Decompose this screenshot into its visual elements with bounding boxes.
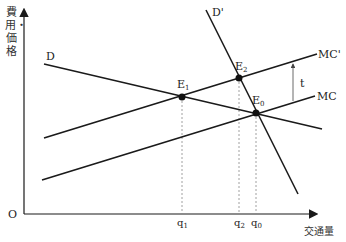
point-E2 xyxy=(236,75,243,82)
tick-q1: q1 xyxy=(177,217,188,230)
label-E0: E0 xyxy=(252,94,265,108)
label-E2: E2 xyxy=(235,60,248,74)
mc-curve xyxy=(42,96,315,180)
label-MC-prime: MC' xyxy=(318,48,341,61)
label-D-prime: D' xyxy=(212,6,224,19)
tick-q2: q2 xyxy=(234,217,245,230)
label-E1: E1 xyxy=(177,78,190,92)
label-D: D xyxy=(46,50,55,63)
tick-q0: q0 xyxy=(251,217,262,230)
tax-label: t xyxy=(300,77,305,90)
economics-diagram: O t D D' MC' MC E1 E2 E0 q1 q2 q0 xyxy=(0,0,346,242)
origin-label: O xyxy=(8,208,17,221)
label-MC: MC xyxy=(317,90,337,103)
point-E0 xyxy=(253,110,260,117)
point-E1 xyxy=(179,94,186,101)
